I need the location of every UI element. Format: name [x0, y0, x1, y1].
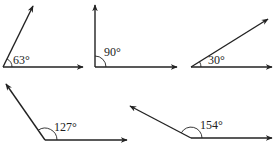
angle-63: 63° — [3, 6, 83, 67]
angle-30: 30° — [191, 19, 272, 67]
angle-label: 90° — [104, 45, 121, 59]
angle-arc — [7, 59, 12, 67]
angles-diagram: 63° 90° 30° 127° 154° — [0, 0, 275, 150]
ray-inclined — [6, 84, 45, 140]
ray-inclined — [191, 19, 268, 67]
angle-label: 154° — [200, 118, 223, 132]
ray-inclined — [130, 106, 191, 138]
angle-arc — [181, 127, 202, 138]
angle-arc — [200, 62, 202, 67]
angle-label: 63° — [13, 53, 30, 67]
angle-90: 90° — [95, 5, 177, 67]
angle-label: 30° — [208, 53, 225, 67]
angle-label: 127° — [54, 120, 77, 134]
angle-127: 127° — [6, 84, 127, 140]
angle-154: 154° — [130, 106, 272, 138]
